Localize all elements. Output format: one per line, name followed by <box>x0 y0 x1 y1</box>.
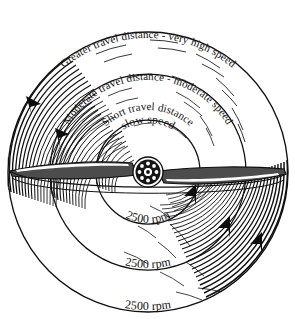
label-rpm-outer-text: 2500 rpm <box>124 297 172 313</box>
label-outer-arc-text: Greater travel distance - very high spee… <box>57 28 238 70</box>
diagram-canvas: Greater travel distance - very high spee… <box>0 0 295 319</box>
label-rpm-middle: 2500 rpm <box>124 254 172 271</box>
label-rpm-middle-text: 2500 rpm <box>124 254 172 271</box>
label-rpm-inner-text: 2500 rpm <box>124 207 172 226</box>
label-inner-arc-second: slow speed <box>119 113 178 132</box>
propeller-diagram: Greater travel distance - very high spee… <box>0 0 295 319</box>
hub-center-dot <box>146 170 150 174</box>
label-rpm-inner: 2500 rpm <box>124 207 172 226</box>
label-rpm-outer: 2500 rpm <box>124 297 172 313</box>
label-inner-arc-second-text: slow speed <box>119 113 178 132</box>
arrow-left-outer <box>26 96 41 116</box>
label-outer-arc: Greater travel distance - very high spee… <box>57 28 238 70</box>
